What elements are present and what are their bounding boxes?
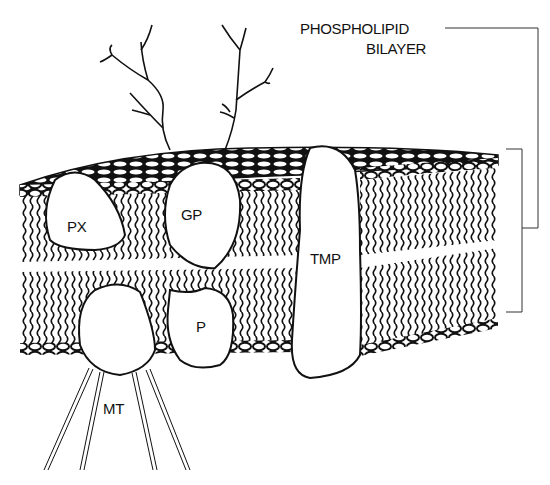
glycan-branch-left [100,25,170,150]
label-mt: MT [103,400,124,417]
label-tmp: TMP [310,250,341,267]
title-line2: BILAYER [366,40,426,58]
title-line1: PHOSPHOLIPID [300,20,409,38]
glycan-branch-right [220,25,273,150]
label-px: PX [67,218,86,235]
protein-gp [165,163,240,268]
microtubules [44,368,190,470]
label-p: P [196,318,206,335]
label-gp: GP [181,206,202,223]
membrane-diagram [0,0,550,485]
lower-tails [20,268,300,345]
